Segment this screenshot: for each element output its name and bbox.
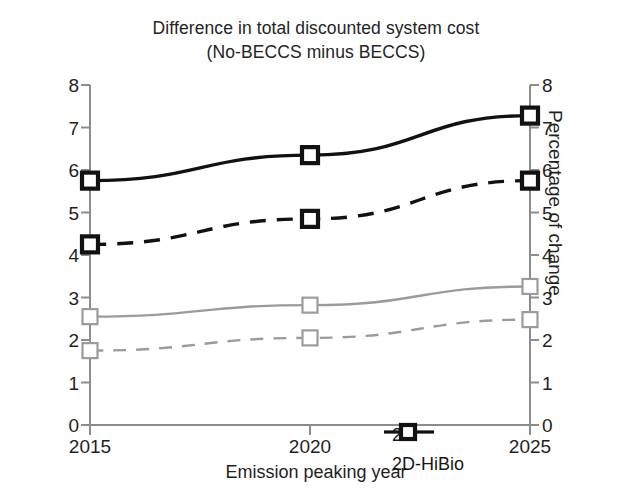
series-marker: [522, 108, 538, 124]
y-tick-label-right: 4: [542, 246, 553, 265]
y-tick-label-right: 5: [542, 203, 553, 222]
y-tick-label-right: 2: [542, 331, 553, 350]
chart-title-line-1: Difference in total discounted system co…: [153, 18, 480, 38]
x-tick-label: 2025: [509, 437, 551, 456]
series-marker: [82, 236, 98, 252]
y-tick-label-left: 6: [68, 161, 79, 180]
series-marker: [302, 211, 318, 227]
y-tick-label-left: 2: [68, 331, 79, 350]
chart-legend: 2D 2D-HiBio: [383, 421, 464, 479]
y-tick-label-right: 0: [542, 416, 553, 435]
plot-svg: [90, 85, 530, 425]
y-tick-label-left: 4: [68, 246, 79, 265]
y-tick-label-right: 7: [542, 118, 553, 137]
legend-item-2d-hibio[interactable]: 2D-HiBio: [383, 450, 464, 479]
legend-label-2d-hibio: 2D-HiBio: [392, 454, 464, 475]
series-marker: [302, 147, 318, 163]
series-marker: [82, 173, 98, 189]
y-tick-label-left: 8: [68, 76, 79, 95]
y-tick-label-left: 1: [68, 373, 79, 392]
series-marker: [83, 343, 98, 358]
series-marker: [83, 309, 98, 324]
legend-marker-2d-hibio-icon: [383, 421, 435, 443]
y-tick-label-right: 6: [542, 161, 553, 180]
chart-title: Difference in total discounted system co…: [0, 16, 632, 64]
y-tick-label-left: 5: [68, 203, 79, 222]
x-axis-label: Emission peaking year: [0, 462, 632, 483]
y-tick-label-left: 0: [68, 416, 79, 435]
y-tick-label-left: 7: [68, 118, 79, 137]
chart-title-line-2: (No-BECCS minus BECCS): [0, 40, 632, 64]
series-marker: [523, 312, 538, 327]
series-marker: [522, 173, 538, 189]
chart-figure: Difference in total discounted system co…: [0, 0, 632, 499]
series-marker: [303, 298, 318, 313]
y-tick-label-right: 3: [542, 288, 553, 307]
series-marker: [523, 279, 538, 294]
y-tick-label-right: 8: [542, 76, 553, 95]
y-tick-label-right: 1: [542, 373, 553, 392]
x-tick-label: 2015: [69, 437, 111, 456]
series-marker: [303, 330, 318, 345]
y-tick-label-left: 3: [68, 288, 79, 307]
plot-area: 012345678012345678201520202025 2D 2D-HiB…: [90, 85, 530, 425]
x-tick-label: 2020: [289, 437, 331, 456]
